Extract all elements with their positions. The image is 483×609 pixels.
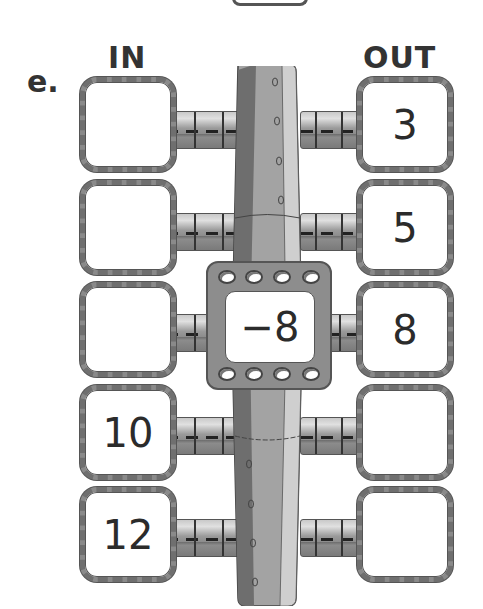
out-box-row-3: 8: [357, 282, 453, 377]
rule-plate: −8: [206, 261, 332, 390]
bolt-icon: [218, 270, 236, 284]
exercise-label: e.: [27, 64, 59, 99]
in-value: 10: [103, 410, 154, 456]
rule-value: −8: [225, 291, 315, 363]
bolt-icon: [218, 367, 236, 381]
out-box-row-4[interactable]: [357, 385, 453, 480]
in-column-header: IN: [108, 40, 146, 75]
in-box-row-1[interactable]: [80, 77, 176, 172]
in-box-row-2[interactable]: [80, 180, 176, 275]
bolt-icon: [273, 270, 291, 284]
out-box-row-2: 5: [357, 180, 453, 275]
in-box-row-4: 10: [80, 385, 176, 480]
out-value: 8: [392, 307, 417, 353]
bolt-icon: [302, 270, 320, 284]
bolt-icon: [273, 367, 291, 381]
in-box-row-5: 12: [80, 487, 176, 582]
out-value: 5: [392, 205, 417, 251]
pipe-in-row-1: [165, 111, 242, 149]
in-value: 12: [103, 512, 154, 558]
out-column-header: OUT: [363, 40, 436, 75]
out-value: 3: [392, 102, 417, 148]
pipe-in-row-4: [165, 417, 242, 455]
in-box-row-3[interactable]: [80, 282, 176, 377]
pipe-in-row-5: [165, 519, 242, 557]
out-box-row-1: 3: [357, 77, 453, 172]
bolt-icon: [302, 367, 320, 381]
bolt-icon: [245, 367, 263, 381]
previous-machine-stub: [232, 0, 308, 6]
out-box-row-5[interactable]: [357, 487, 453, 582]
bolt-icon: [245, 270, 263, 284]
pipe-in-row-2: [165, 213, 242, 251]
